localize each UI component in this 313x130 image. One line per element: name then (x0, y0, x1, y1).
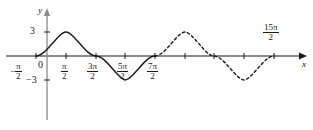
fraction: 7π2 (147, 62, 158, 81)
y-tick-label-neg3: −3 (26, 75, 37, 85)
y-axis-label: y (38, 6, 42, 15)
x-tick-label-7pi-over-2: 7π2 (147, 62, 158, 81)
x-tick-label-pi-over-2: π2 (61, 62, 68, 81)
y-axis (44, 8, 50, 120)
x-tick-label-3pi-over-2: 3π2 (87, 62, 98, 81)
x-tick-label-5pi-over-2: 5π2 (117, 62, 128, 81)
fraction: 15π2 (263, 23, 279, 42)
origin-label: 0 (38, 60, 43, 70)
sine-graph-figure: y x 0 3 −3 −π2 π2 3π2 5π2 7π2 15π2 (0, 0, 313, 130)
fraction: 5π2 (117, 62, 128, 81)
x-tick-label-15pi-over-2: 15π2 (263, 23, 279, 42)
x-tick-label-neg-pi-over-2: −π2 (10, 62, 22, 81)
x-axis-label: x (302, 60, 306, 69)
fraction: 3π2 (87, 62, 98, 81)
fraction: π2 (61, 62, 68, 81)
y-tick-label-3: 3 (30, 26, 35, 36)
fraction: π2 (15, 62, 22, 81)
